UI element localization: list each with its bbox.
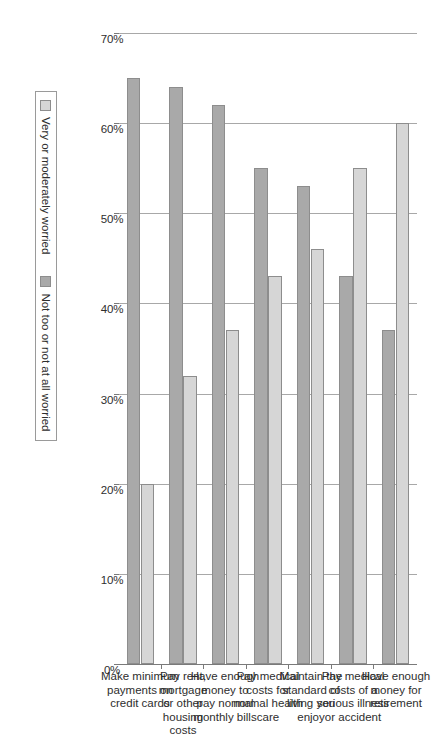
legend-swatch-icon bbox=[41, 100, 52, 111]
bar-worried bbox=[226, 330, 240, 664]
category-tick-mark bbox=[161, 664, 162, 669]
gridline bbox=[119, 33, 417, 34]
bar-worried bbox=[396, 123, 410, 664]
tick-label: 30% bbox=[101, 394, 123, 406]
tick-label: 20% bbox=[101, 484, 123, 496]
bar-worried bbox=[141, 484, 155, 664]
value-tick-mark bbox=[114, 213, 119, 214]
bar-worried bbox=[353, 168, 367, 664]
chart-legend: Very or moderately worriedNot too or not… bbox=[35, 91, 57, 441]
value-tick-mark bbox=[114, 123, 119, 124]
tick-label: 50% bbox=[101, 213, 123, 225]
bar-not-worried bbox=[254, 168, 268, 664]
legend-label: Very or moderately worried bbox=[40, 117, 52, 254]
value-tick-mark bbox=[114, 394, 119, 395]
bar-worried bbox=[311, 249, 325, 664]
category-tick-mark bbox=[203, 664, 204, 669]
value-tick-mark bbox=[114, 484, 119, 485]
chart-plot-area bbox=[119, 0, 417, 713]
category-tick-mark bbox=[246, 664, 247, 669]
bar-not-worried bbox=[212, 105, 226, 664]
category-tick-mark bbox=[373, 664, 374, 669]
tick-label: 10% bbox=[101, 574, 123, 586]
tick-label: 70% bbox=[101, 33, 123, 45]
legend-entry[interactable]: Not too or not at all worried bbox=[40, 276, 52, 431]
legend-swatch-icon bbox=[41, 276, 52, 287]
value-tick-mark bbox=[114, 574, 119, 575]
bar-worried bbox=[268, 276, 282, 664]
value-tick-mark bbox=[114, 33, 119, 34]
bar-not-worried bbox=[127, 78, 141, 664]
bar-worried bbox=[183, 376, 197, 664]
value-tick-mark bbox=[114, 303, 119, 304]
bar-not-worried bbox=[169, 87, 183, 664]
tick-label: 40% bbox=[101, 303, 123, 315]
tick-label: 60% bbox=[101, 123, 123, 135]
gridline bbox=[119, 213, 417, 214]
category-label: Make minimum payments on credit cards bbox=[99, 670, 182, 711]
bar-not-worried bbox=[382, 330, 396, 664]
gridline bbox=[119, 123, 417, 124]
bar-not-worried bbox=[339, 276, 353, 664]
legend-label: Not too or not at all worried bbox=[40, 293, 52, 431]
category-tick-mark bbox=[331, 664, 332, 669]
category-axis-line bbox=[119, 664, 417, 665]
bar-not-worried bbox=[297, 186, 311, 664]
category-tick-mark bbox=[288, 664, 289, 669]
value-tick-mark bbox=[114, 664, 119, 665]
legend-entry[interactable]: Very or moderately worried bbox=[40, 100, 52, 254]
